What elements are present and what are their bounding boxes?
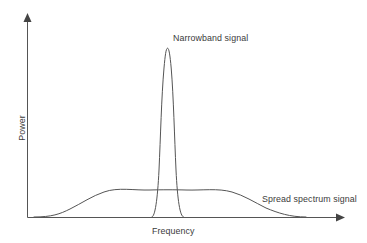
narrowband-curve — [152, 48, 184, 217]
power-axis-arrow-icon — [24, 13, 32, 22]
spread-spectrum-signal-label: Spread spectrum signal — [262, 194, 357, 204]
y-axis-label: Power — [17, 115, 27, 141]
narrowband-signal-label: Narrowband signal — [173, 33, 248, 43]
spectrum-comparison-figure: Narrowband signal Spread spectrum signal… — [0, 0, 367, 243]
x-axis-label: Frequency — [152, 226, 195, 236]
frequency-axis-arrow-icon — [336, 214, 345, 222]
